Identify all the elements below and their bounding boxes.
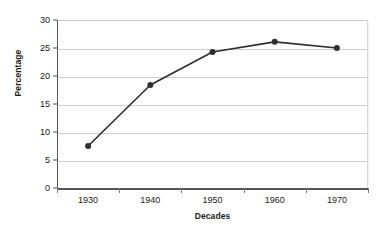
y-axis-tick-mark	[53, 76, 57, 77]
x-axis-tick-label: 1950	[193, 196, 233, 205]
x-axis-tick-label: 1970	[317, 196, 357, 205]
y-axis-tick-label: 25	[26, 44, 50, 53]
gridline	[57, 161, 367, 162]
x-axis-tick-label: 1930	[68, 196, 108, 205]
y-axis-tick-mark	[53, 104, 57, 105]
gridline	[57, 133, 367, 134]
x-axis-tick-label: 1960	[255, 196, 295, 205]
y-axis-tick-label: 30	[26, 16, 50, 25]
gridline	[57, 77, 367, 78]
y-axis-tick-label: 10	[26, 128, 50, 137]
line-chart: Percentage 051015202530 1930194019501960…	[0, 0, 388, 233]
x-axis-title: Decades	[57, 211, 368, 221]
x-axis-tick-label: 1940	[130, 196, 170, 205]
y-axis-tick-mark	[53, 48, 57, 49]
plot-area	[57, 20, 368, 188]
y-axis-tick-mark	[53, 188, 57, 189]
x-axis-tick-mark	[57, 188, 58, 193]
y-axis-tick-label: 15	[26, 100, 50, 109]
y-axis-tick-mark	[53, 160, 57, 161]
x-axis-tick-mark	[306, 188, 307, 193]
gridline	[57, 105, 367, 106]
x-axis-tick-mark	[119, 188, 120, 193]
x-axis-tick-mark	[181, 188, 182, 193]
y-axis-line	[57, 20, 58, 189]
y-axis-tick-labels: 051015202530	[26, 0, 50, 233]
x-axis-line	[57, 188, 369, 190]
x-axis-tick-mark	[244, 188, 245, 193]
y-axis-title: Percentage	[13, 33, 23, 113]
gridline	[57, 49, 367, 50]
y-axis-tick-label: 5	[26, 156, 50, 165]
x-axis-tick-mark	[368, 188, 369, 193]
y-axis-tick-mark	[53, 132, 57, 133]
y-axis-tick-label: 0	[26, 184, 50, 193]
y-axis-tick-label: 20	[26, 72, 50, 81]
y-axis-tick-mark	[53, 20, 57, 21]
